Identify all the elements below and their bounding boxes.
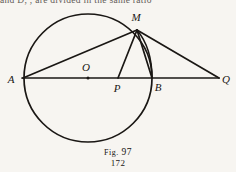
point-label-m: M (130, 11, 141, 23)
center-point-marker (87, 77, 90, 80)
caption-block: Fig. 97 172 (0, 147, 236, 169)
point-label-q: Q (222, 73, 230, 85)
figure-page: and D, , are divided in the same ratio A… (0, 0, 236, 172)
point-label-b: B (155, 81, 162, 93)
point-label-a: A (7, 73, 15, 85)
figure-caption: Fig. 97 (0, 147, 236, 158)
figure-caption-prefix: Fig. (104, 148, 119, 157)
figure-caption-number: 97 (122, 147, 132, 157)
point-label-o: O (82, 61, 90, 73)
point-label-p: P (113, 82, 121, 94)
page-number: 172 (0, 158, 236, 169)
segment-am (23, 30, 137, 78)
